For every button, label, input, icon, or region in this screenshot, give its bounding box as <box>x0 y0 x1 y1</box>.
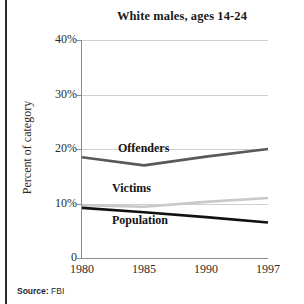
source-label: Source: <box>17 286 49 296</box>
figure-panel: White males, ages 14-24 Percent of categ… <box>0 0 304 304</box>
y-tick-mark <box>77 204 81 205</box>
y-tick-mark <box>77 95 81 96</box>
y-tick-mark <box>77 149 81 150</box>
y-tick-mark <box>77 40 81 41</box>
x-tick-label: 1997 <box>245 262 291 277</box>
series-line-offenders <box>82 149 268 165</box>
x-tick-label: 1985 <box>121 262 167 277</box>
series-label-victims: Victims <box>112 181 151 196</box>
series-line-victims <box>82 198 268 207</box>
y-tick-mark <box>77 258 81 259</box>
source-value: FBI <box>51 286 64 296</box>
x-tick-label: 1990 <box>183 262 229 277</box>
series-label-population: Population <box>112 213 168 228</box>
series-label-offenders: Offenders <box>118 141 169 156</box>
source-note: Source: FBI <box>17 286 64 296</box>
x-tick-label: 1980 <box>59 262 105 277</box>
series-line-population <box>82 208 268 223</box>
